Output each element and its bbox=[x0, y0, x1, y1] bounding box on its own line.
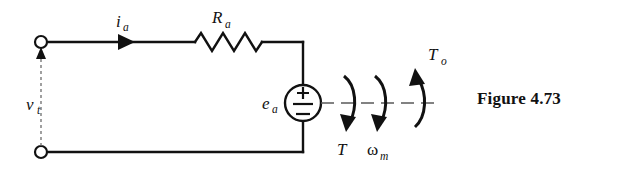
armature-current-label: i bbox=[116, 12, 121, 31]
armature-resistance-subscript: a bbox=[225, 18, 231, 30]
armature-current-subscript: a bbox=[123, 21, 129, 33]
armature-resistor-symbol bbox=[195, 33, 262, 51]
output-torque-arrow-head bbox=[409, 68, 425, 86]
armature-resistance-label: R bbox=[211, 8, 223, 27]
circuit-diagram: v t i a R a e a T ω m T o Figure 4.73 bbox=[0, 0, 621, 176]
terminal-voltage-label: v bbox=[26, 95, 34, 114]
armature-current-arrowhead bbox=[118, 34, 135, 50]
output-torque-label: T bbox=[428, 45, 439, 64]
output-torque-arrow-curve bbox=[415, 80, 425, 127]
speed-arrow-omega-head bbox=[371, 114, 387, 132]
back-emf-subscript: a bbox=[272, 103, 278, 115]
back-emf-label: e bbox=[262, 94, 270, 113]
terminal-voltage-arrowhead bbox=[36, 47, 46, 59]
figure-caption: Figure 4.73 bbox=[477, 89, 561, 108]
bottom-terminal-node bbox=[35, 146, 47, 158]
figure-container: v t i a R a e a T ω m T o Figure 4.73 bbox=[0, 0, 621, 176]
torque-label: T bbox=[337, 140, 348, 159]
angular-speed-subscript: m bbox=[380, 150, 388, 162]
top-terminal-node bbox=[35, 36, 47, 48]
angular-speed-label: ω bbox=[367, 140, 378, 159]
torque-arrow-T-head bbox=[340, 114, 356, 132]
output-torque-subscript: o bbox=[441, 55, 447, 67]
